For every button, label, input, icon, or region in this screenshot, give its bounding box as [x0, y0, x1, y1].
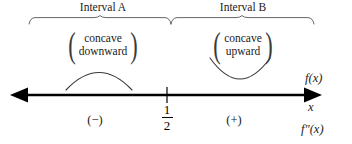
critical-point-label: 1 2 [152, 103, 182, 132]
interval-a-concavity-line2: downward [79, 45, 128, 57]
variable-label: x [308, 100, 314, 114]
fraction-numerator: 1 [152, 103, 182, 116]
interval-a-sign: (−) [65, 113, 125, 127]
interval-a-brace [28, 15, 172, 25]
left-arrowhead [10, 88, 28, 103]
function-label: f(x) [305, 71, 322, 85]
interval-b-sign: (+) [204, 113, 264, 127]
concavity-sign-chart: Interval A Interval B ( concave downward… [0, 0, 352, 144]
interval-a-label: Interval A [53, 1, 153, 14]
left-paren-a: ( [68, 30, 75, 60]
right-paren-a: ) [131, 30, 138, 60]
interval-a-concavity-text: concave downward [78, 32, 129, 59]
interval-b-brace [170, 15, 315, 25]
interval-b-label: Interval B [193, 1, 293, 14]
interval-a-concavity-line1: concave [84, 32, 122, 44]
second-derivative-label: f″(x) [301, 122, 324, 136]
interval-b-concavity-text: concave upward [223, 32, 263, 59]
interval-a-concavity-note: ( concave downward ) [48, 28, 158, 62]
interval-b-concavity-line1: concave [224, 32, 262, 44]
fraction-denominator: 2 [152, 119, 182, 132]
